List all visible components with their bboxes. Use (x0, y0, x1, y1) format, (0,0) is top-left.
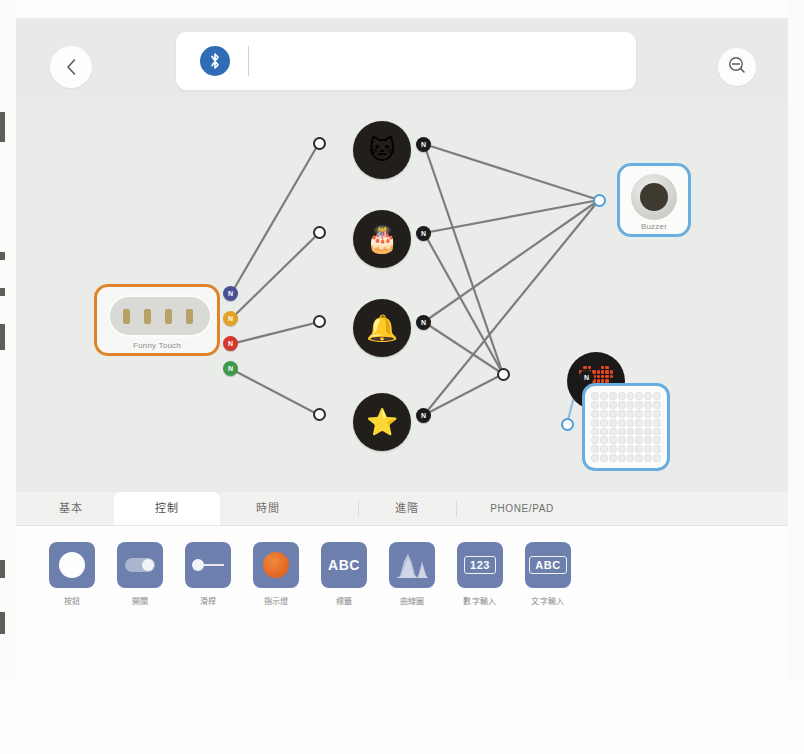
device-buzzer[interactable]: Buzzer (617, 163, 691, 237)
touch-pad (186, 309, 193, 324)
paper-bottom-margin (0, 682, 804, 754)
output-port-cake[interactable]: N (416, 226, 431, 241)
circle-button-icon (49, 542, 95, 588)
input-ring-buzzer[interactable] (593, 194, 606, 207)
zoom-out-button[interactable] (718, 48, 756, 86)
output-port-bell[interactable]: N (416, 315, 431, 330)
wire-bell-to-buzzer (424, 200, 599, 322)
touch-pad (165, 309, 172, 324)
touch-pad (144, 309, 151, 324)
birthday-cake-icon: 🎂 (366, 226, 398, 252)
buzzer-diaphragm (640, 183, 668, 211)
indicator-lamp-icon (253, 542, 299, 588)
device-led-matrix[interactable] (582, 383, 670, 471)
abc-glyph: ABC (328, 557, 360, 573)
node-bell[interactable]: 🔔 (353, 299, 411, 357)
tab-control[interactable]: 控制 (114, 492, 220, 525)
widget-slider[interactable]: 滑桿 (176, 542, 240, 606)
paper-right-margin (788, 0, 804, 754)
input-ring-cake[interactable] (313, 226, 326, 239)
screenshot-root: Funny Touch N N N N 🐱 N 🎂 N 🔔 N (0, 0, 804, 754)
widget-label-text[interactable]: ABC 標籤 (312, 542, 376, 606)
wire-cake-to-heart (424, 233, 503, 374)
number-input-icon: 123 (457, 542, 503, 588)
widget-switch[interactable]: 開關 (108, 542, 172, 606)
wire-bell-to-heart (424, 322, 503, 374)
port-funny-touch-navy[interactable]: N (223, 286, 238, 301)
widget-panel: 基本 控制 時間 進階 PHONE/PAD 按鈕 (16, 492, 788, 682)
widget-label: 開關 (108, 595, 172, 606)
widget-text-input[interactable]: ABC 文字輸入 (516, 542, 580, 606)
cat-face-icon: 🐱 (368, 137, 395, 163)
project-name-input[interactable] (249, 40, 636, 82)
number-glyph: 123 (464, 556, 496, 574)
widget-label: 滑桿 (176, 595, 240, 606)
widget-number-input[interactable]: 123 數字輸入 (448, 542, 512, 606)
device-funny-touch[interactable]: Funny Touch (94, 284, 220, 356)
wire-touch-navy-to-cat (231, 143, 319, 294)
bluetooth-icon[interactable] (200, 46, 230, 76)
widget-label: 指示燈 (244, 595, 308, 606)
tab-phone-pad[interactable]: PHONE/PAD (457, 492, 587, 525)
widget-list: 按鈕 開關 滑桿 (16, 526, 788, 642)
widget-label: 標籤 (312, 595, 376, 606)
node-cat[interactable]: 🐱 (353, 121, 411, 179)
toggle-switch-icon (117, 542, 163, 588)
page-edge-mark (0, 252, 5, 260)
wire-cat-to-heart (424, 144, 503, 374)
input-ring-star[interactable] (313, 408, 326, 421)
widget-indicator[interactable]: 指示燈 (244, 542, 308, 606)
chevron-left-icon (65, 58, 78, 76)
output-port-cat[interactable]: N (416, 137, 431, 152)
buzzer-speaker (631, 174, 677, 220)
widget-label: 按鈕 (40, 595, 104, 606)
output-port-star[interactable]: N (416, 408, 431, 423)
device-label-buzzer: Buzzer (620, 222, 688, 231)
touch-pad (123, 309, 130, 324)
panel-tabs: 基本 控制 時間 進階 PHONE/PAD (16, 492, 788, 526)
led-matrix-grid (591, 392, 661, 462)
widget-button[interactable]: 按鈕 (40, 542, 104, 606)
star-icon: ⭐ (366, 409, 398, 435)
widget-label: 文字輸入 (516, 595, 580, 606)
node-cake[interactable]: 🎂 (353, 210, 411, 268)
funny-touch-body (107, 294, 213, 338)
text-glyph: ABC (529, 556, 566, 574)
wire-touch-red-to-bell (231, 322, 319, 344)
wire-star-to-heart (424, 374, 503, 415)
page-edge-mark (0, 324, 5, 350)
top-bar (16, 18, 788, 102)
bells-icon: 🔔 (366, 315, 398, 341)
wire-cat-to-buzzer (424, 144, 599, 200)
tab-advanced[interactable]: 進階 (359, 492, 455, 525)
input-ring-cat[interactable] (313, 137, 326, 150)
text-input-icon: ABC (525, 542, 571, 588)
tab-time[interactable]: 時間 (220, 492, 316, 525)
input-ring-heart[interactable] (497, 368, 510, 381)
widget-curve-chart[interactable]: 曲線圖 (380, 542, 444, 606)
widget-label: 曲線圖 (380, 595, 444, 606)
paper-top-margin (0, 0, 804, 20)
back-button[interactable] (50, 46, 92, 88)
paper-left-margin (0, 0, 16, 754)
wire-cake-to-buzzer (424, 200, 599, 233)
curve-chart-icon (389, 542, 435, 588)
project-name-bar[interactable] (176, 32, 636, 90)
input-ring-bell[interactable] (313, 315, 326, 328)
tablet-screen: Funny Touch N N N N 🐱 N 🎂 N 🔔 N (16, 18, 788, 682)
tab-basic[interactable]: 基本 (28, 492, 114, 525)
flow-canvas[interactable]: Funny Touch N N N N 🐱 N 🎂 N 🔔 N (16, 102, 788, 492)
port-funny-touch-amber[interactable]: N (223, 311, 238, 326)
page-edge-mark (0, 112, 5, 142)
page-edge-mark (0, 612, 5, 634)
widget-label: 數字輸入 (448, 595, 512, 606)
wire-touch-green-to-star (231, 369, 319, 415)
wire-touch-amber-to-cake (231, 233, 319, 319)
port-funny-touch-red[interactable]: N (223, 336, 238, 351)
port-funny-touch-green[interactable]: N (223, 361, 238, 376)
label-abc-icon: ABC (321, 542, 367, 588)
zoom-out-icon (727, 55, 747, 79)
input-ring-led-matrix[interactable] (561, 418, 574, 431)
node-star[interactable]: ⭐ (353, 393, 411, 451)
device-label-funny-touch: Funny Touch (97, 341, 217, 350)
